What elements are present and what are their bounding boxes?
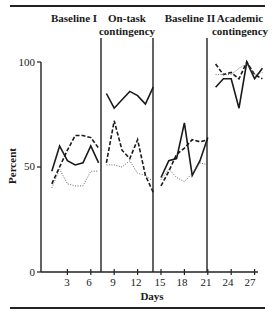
y-tick-100: 100 bbox=[19, 56, 36, 68]
phase-label-academic-1: Academic bbox=[217, 12, 264, 24]
line-chart: Baseline I On-task contingency Baseline … bbox=[0, 0, 275, 319]
x-tick-6: 6 bbox=[86, 276, 92, 288]
y-tick-0: 0 bbox=[30, 266, 36, 278]
x-tick-12: 12 bbox=[131, 276, 142, 288]
phase-label-baseline-1: Baseline I bbox=[51, 12, 97, 24]
x-tick-9: 9 bbox=[110, 276, 116, 288]
data-series bbox=[52, 62, 263, 192]
x-tick-27: 27 bbox=[245, 276, 257, 288]
series-dotted-line bbox=[216, 64, 263, 75]
x-tick-21: 21 bbox=[201, 276, 212, 288]
phase-label-on-task-1: On-task bbox=[108, 12, 147, 24]
x-tick-labels: 3 6 9 12 15 18 21 24 27 bbox=[64, 276, 256, 288]
phase-label-on-task-2: contingency bbox=[99, 25, 156, 37]
x-tick-18: 18 bbox=[177, 276, 189, 288]
y-tick-50: 50 bbox=[24, 160, 36, 172]
series-solid-line bbox=[52, 146, 99, 171]
series-solid-line bbox=[106, 87, 153, 108]
series-dashed-line bbox=[106, 121, 153, 192]
x-tick-15: 15 bbox=[155, 276, 167, 288]
x-tick-3: 3 bbox=[64, 276, 70, 288]
x-tick-24: 24 bbox=[223, 276, 235, 288]
series-dashed-line bbox=[216, 62, 263, 79]
series-dotted-line bbox=[52, 169, 99, 188]
y-axis-title: Percent bbox=[6, 148, 18, 184]
series-solid-line bbox=[161, 123, 208, 178]
series-dashed-line bbox=[52, 136, 99, 184]
phase-label-baseline-2: Baseline II bbox=[165, 12, 215, 24]
x-axis-title: Days bbox=[140, 290, 164, 302]
phase-label-academic-2: contingency bbox=[212, 25, 269, 37]
